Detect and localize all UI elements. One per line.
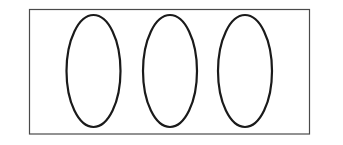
ellipse-1 [67,15,121,127]
ellipse-2 [143,15,197,127]
frame-rectangle [30,10,310,135]
diagram-canvas [0,0,343,145]
ellipse-3 [218,15,272,127]
ellipse-group [67,15,273,127]
